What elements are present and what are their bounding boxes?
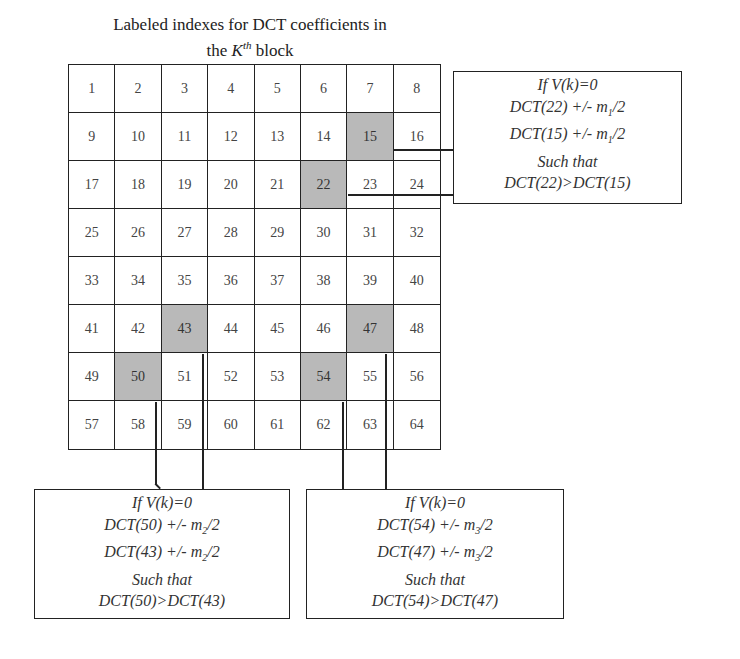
condition-line: If V(k)=0 <box>307 492 563 514</box>
grid-cell-52: 52 <box>208 353 254 401</box>
grid-cell-54: 54 <box>301 353 347 401</box>
grid-cell-31: 31 <box>347 209 393 257</box>
grid-cell-6: 6 <box>301 65 347 113</box>
grid-cell-21: 21 <box>255 161 301 209</box>
adjust-line-47: DCT(47) +/- m3/2 <box>307 541 563 569</box>
inequality-line: DCT(54)>DCT(47) <box>307 590 563 612</box>
grid-cell-53: 53 <box>255 353 301 401</box>
grid-cell-10: 10 <box>115 113 161 161</box>
such-that-line: Such that <box>307 569 563 591</box>
grid-cell-37: 37 <box>255 257 301 305</box>
title-line-1: Labeled indexes for DCT coefficients in <box>60 14 440 35</box>
grid-cell-22: 22 <box>301 161 347 209</box>
grid-cell-16: 16 <box>394 113 440 161</box>
grid-cell-46: 46 <box>301 305 347 353</box>
rule-box-pair-22-15: If V(k)=0 DCT(22) +/- m1/2 DCT(15) +/- m… <box>453 71 682 204</box>
connector-50-to-box2 <box>155 402 157 484</box>
connector-54-to-box3 <box>342 402 344 489</box>
grid-cell-44: 44 <box>208 305 254 353</box>
grid-cell-32: 32 <box>394 209 440 257</box>
adjust-line-50: DCT(50) +/- m2/2 <box>35 514 289 542</box>
title-k-variable: K <box>232 41 243 60</box>
grid-cell-24: 24 <box>394 161 440 209</box>
grid-cell-33: 33 <box>69 257 115 305</box>
connector-43-to-box2 <box>202 354 204 489</box>
grid-cell-27: 27 <box>162 209 208 257</box>
grid-cell-2: 2 <box>115 65 161 113</box>
grid-cell-26: 26 <box>115 209 161 257</box>
grid-cell-9: 9 <box>69 113 115 161</box>
grid-cell-56: 56 <box>394 353 440 401</box>
grid-cell-3: 3 <box>162 65 208 113</box>
title-prefix: the <box>207 41 232 60</box>
adjust-line-15: DCT(15) +/- m1/2 <box>454 123 681 151</box>
grid-cell-14: 14 <box>301 113 347 161</box>
grid-cell-36: 36 <box>208 257 254 305</box>
grid-cell-41: 41 <box>69 305 115 353</box>
grid-cell-28: 28 <box>208 209 254 257</box>
grid-cell-12: 12 <box>208 113 254 161</box>
adjust-line-43: DCT(43) +/- m2/2 <box>35 541 289 569</box>
condition-line: If V(k)=0 <box>35 492 289 514</box>
such-that-line: Such that <box>454 151 681 173</box>
grid-cell-23: 23 <box>347 161 393 209</box>
grid-cell-8: 8 <box>394 65 440 113</box>
grid-cell-29: 29 <box>255 209 301 257</box>
grid-cell-19: 19 <box>162 161 208 209</box>
grid-cell-60: 60 <box>208 401 254 449</box>
grid-cell-55: 55 <box>347 353 393 401</box>
grid-cell-40: 40 <box>394 257 440 305</box>
grid-cell-50: 50 <box>115 353 161 401</box>
grid-cell-61: 61 <box>255 401 301 449</box>
grid-cell-57: 57 <box>69 401 115 449</box>
grid-cell-13: 13 <box>255 113 301 161</box>
connector-47-to-box3 <box>385 354 387 489</box>
grid-cell-47: 47 <box>347 305 393 353</box>
grid-cell-42: 42 <box>115 305 161 353</box>
grid-cell-63: 63 <box>347 401 393 449</box>
adjust-line-54: DCT(54) +/- m3/2 <box>307 514 563 542</box>
grid-cell-15: 15 <box>347 113 393 161</box>
grid-cell-18: 18 <box>115 161 161 209</box>
adjust-line-22: DCT(22) +/- m1/2 <box>454 96 681 124</box>
grid-cell-64: 64 <box>394 401 440 449</box>
grid-cell-43: 43 <box>162 305 208 353</box>
grid-cell-35: 35 <box>162 257 208 305</box>
grid-cell-45: 45 <box>255 305 301 353</box>
rule-box-pair-50-43: If V(k)=0 DCT(50) +/- m2/2 DCT(43) +/- m… <box>34 489 290 619</box>
such-that-line: Such that <box>35 569 289 591</box>
grid-cell-39: 39 <box>347 257 393 305</box>
grid-cell-25: 25 <box>69 209 115 257</box>
condition-line: If V(k)=0 <box>454 74 681 96</box>
title-suffix: block <box>251 41 293 60</box>
connector-15-to-box1 <box>394 149 453 151</box>
grid-cell-1: 1 <box>69 65 115 113</box>
grid-cell-5: 5 <box>255 65 301 113</box>
grid-cell-38: 38 <box>301 257 347 305</box>
grid-cell-34: 34 <box>115 257 161 305</box>
grid-cell-7: 7 <box>347 65 393 113</box>
grid-cell-4: 4 <box>208 65 254 113</box>
grid-cell-48: 48 <box>394 305 440 353</box>
grid-cell-17: 17 <box>69 161 115 209</box>
inequality-line: DCT(22)>DCT(15) <box>454 172 681 194</box>
connector-22-to-box1 <box>348 194 453 196</box>
figure-title: Labeled indexes for DCT coefficients in … <box>60 14 440 61</box>
grid-cell-11: 11 <box>162 113 208 161</box>
grid-cell-20: 20 <box>208 161 254 209</box>
inequality-line: DCT(50)>DCT(43) <box>35 590 289 612</box>
grid-cell-62: 62 <box>301 401 347 449</box>
rule-box-pair-54-47: If V(k)=0 DCT(54) +/- m3/2 DCT(47) +/- m… <box>306 489 564 619</box>
title-line-2: the Kth block <box>60 35 440 61</box>
grid-cell-30: 30 <box>301 209 347 257</box>
grid-cell-49: 49 <box>69 353 115 401</box>
